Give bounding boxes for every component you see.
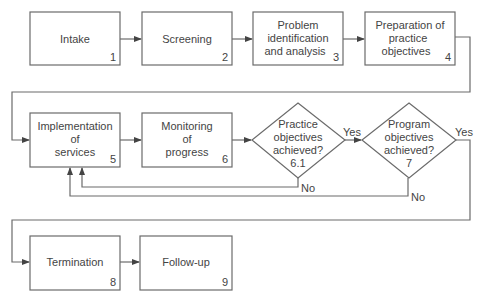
- decision-number: 6.1: [290, 157, 305, 169]
- decision-label-line-3: achieved?: [384, 144, 434, 156]
- node-monitoring-of-progress: Monitoring of progress 6: [142, 113, 232, 167]
- node-label-line-2: practice: [389, 32, 428, 44]
- edge-label-no-7: No: [411, 191, 425, 203]
- node-number: 2: [222, 51, 228, 63]
- node-label: Screening: [162, 33, 212, 45]
- node-intake: Intake 1: [30, 12, 120, 65]
- node-label-line-2: of: [182, 133, 192, 145]
- node-label-line-2: of: [70, 133, 80, 145]
- node-number: 1: [110, 51, 116, 63]
- node-label: Follow-up: [162, 256, 210, 268]
- decision-label-line-3: achieved?: [273, 144, 323, 156]
- node-label-line-1: Monitoring: [161, 120, 212, 132]
- node-screening: Screening 2: [142, 12, 232, 65]
- arrow-6.1-no-to-5: [82, 168, 298, 187]
- node-termination: Termination 8: [30, 236, 120, 290]
- node-label-line-3: progress: [166, 146, 209, 158]
- node-label: Termination: [47, 256, 104, 268]
- node-label-line-1: Preparation of: [375, 19, 445, 31]
- node-label-line-2: identification: [267, 32, 328, 44]
- flowchart-canvas: Intake 1 Screening 2 Problem identificat…: [0, 0, 483, 300]
- edge-label-no-6.1: No: [301, 182, 315, 194]
- decision-label-line-2: objectives: [274, 131, 323, 143]
- node-preparation-of-practice-objectives: Preparation of practice objectives 4: [365, 12, 455, 65]
- node-problem-identification: Problem identification and analysis 3: [253, 12, 343, 65]
- node-label: Intake: [60, 33, 90, 45]
- arrow-7-no-to-5: [70, 168, 408, 196]
- node-label-line-3: objectives: [382, 45, 431, 57]
- node-implementation-of-services: Implementation of services 5: [30, 113, 120, 167]
- edge-label-yes-6.1: Yes: [343, 126, 361, 138]
- decision-number: 7: [406, 157, 412, 169]
- node-label-line-3: and analysis: [264, 45, 326, 57]
- decision-practice-objectives-achieved: Practice objectives achieved? 6.1: [252, 103, 345, 178]
- node-label-line-1: Problem: [278, 19, 319, 31]
- node-follow-up: Follow-up 9: [140, 236, 232, 290]
- node-number: 6: [222, 153, 228, 165]
- node-number: 3: [333, 51, 339, 63]
- edge-label-yes-7: Yes: [455, 126, 473, 138]
- node-number: 9: [222, 276, 228, 288]
- decision-program-objectives-achieved: Program objectives achieved? 7: [362, 103, 456, 178]
- node-label-line-3: services: [55, 146, 96, 158]
- node-label-line-1: Implementation: [37, 120, 112, 132]
- decision-label-line-1: Program: [388, 118, 430, 130]
- node-number: 5: [110, 153, 116, 165]
- node-number: 4: [445, 51, 451, 63]
- decision-label-line-1: Practice: [278, 118, 318, 130]
- node-number: 8: [110, 276, 116, 288]
- decision-label-line-2: objectives: [385, 131, 434, 143]
